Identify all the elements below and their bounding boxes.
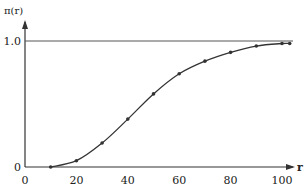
data-point bbox=[203, 59, 207, 63]
data-point bbox=[177, 72, 181, 76]
x-axis-arrow-icon bbox=[286, 164, 295, 170]
x-tick-label: 40 bbox=[121, 174, 135, 187]
data-point bbox=[229, 51, 233, 55]
data-point bbox=[49, 165, 53, 169]
data-points bbox=[49, 42, 292, 169]
y-tick-label: 1.0 bbox=[4, 35, 22, 48]
axis-labels: 02040608010001.0π(r)r bbox=[4, 5, 304, 187]
data-point bbox=[75, 159, 79, 163]
data-curve bbox=[51, 43, 290, 167]
data-point bbox=[126, 117, 130, 121]
chart-svg: 02040608010001.0π(r)r bbox=[0, 0, 307, 192]
x-tick-label: 20 bbox=[69, 174, 83, 187]
x-tick-label: 80 bbox=[224, 174, 238, 187]
data-point bbox=[288, 42, 292, 46]
data-point bbox=[254, 44, 258, 48]
x-tick-label: 0 bbox=[22, 174, 29, 187]
y-axis-arrow-icon bbox=[22, 20, 28, 29]
x-tick-label: 100 bbox=[272, 174, 293, 187]
y-tick-label: 0 bbox=[14, 161, 21, 174]
y-axis-label: π(r) bbox=[4, 5, 23, 16]
data-point bbox=[152, 92, 156, 96]
axes bbox=[22, 20, 295, 170]
data-point bbox=[280, 42, 284, 46]
data-point bbox=[100, 141, 104, 145]
pi-r-curve bbox=[51, 43, 290, 167]
x-tick-label: 60 bbox=[172, 174, 186, 187]
x-axis-label: r bbox=[297, 161, 303, 174]
